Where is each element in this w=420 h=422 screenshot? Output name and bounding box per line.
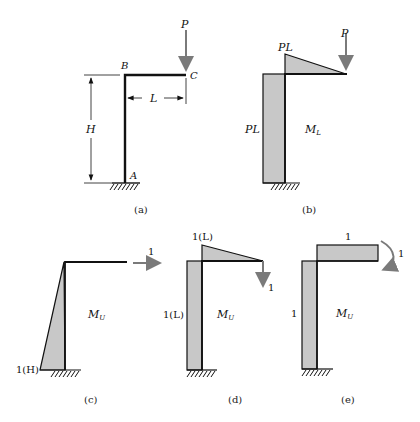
beam-moment-area bbox=[317, 245, 378, 261]
panel-caption-b: (b) bbox=[302, 204, 316, 215]
unit-load-label: 1 bbox=[268, 282, 274, 293]
diagram-name-mu: MU bbox=[216, 308, 235, 322]
diagram-name-ml: ML bbox=[304, 123, 321, 137]
fixed-support-icon bbox=[187, 370, 217, 377]
beam-moment-area bbox=[285, 54, 346, 74]
unit-moment-label: 1 bbox=[398, 248, 404, 259]
panel-caption-c: (c) bbox=[84, 394, 98, 405]
panel-b-moment-diagram bbox=[263, 33, 347, 190]
diagram-name-mu: MU bbox=[87, 308, 106, 322]
column-moment-area bbox=[302, 261, 317, 369]
column-moment-area bbox=[40, 262, 65, 370]
beam-moment-area bbox=[202, 245, 263, 261]
column-moment-area bbox=[263, 74, 285, 183]
panel-caption-a: (a) bbox=[134, 204, 148, 215]
panel-caption-d: (d) bbox=[228, 394, 242, 405]
fixed-support-icon bbox=[263, 183, 300, 190]
beam-moment-label: PL bbox=[277, 41, 293, 54]
support-label-a: A bbox=[129, 170, 137, 181]
fixed-support-icon bbox=[110, 183, 140, 190]
panel-a-frame-geometry bbox=[84, 30, 186, 190]
structural-frame-figure: P B C A H L (a) P PL PL ML (b) bbox=[0, 0, 420, 422]
fixed-support-icon bbox=[302, 369, 333, 376]
diagram-name-mu: MU bbox=[335, 307, 354, 321]
panel-caption-e: (e) bbox=[341, 394, 355, 405]
column-moment-label: PL bbox=[244, 123, 260, 136]
dimension-label-l: L bbox=[149, 92, 157, 105]
unit-moment-arrow-icon bbox=[381, 241, 394, 269]
base-moment-label: 1(H) bbox=[16, 364, 39, 375]
beam-moment-label: 1 bbox=[345, 231, 351, 242]
joint-label-b: B bbox=[120, 60, 128, 71]
column-moment-label: 1(L) bbox=[163, 309, 184, 320]
column-moment-label: 1 bbox=[291, 308, 297, 319]
beam-moment-label: 1(L) bbox=[192, 231, 213, 242]
dimension-label-h: H bbox=[85, 123, 96, 136]
column-moment-area bbox=[187, 261, 202, 370]
load-label-p: P bbox=[340, 27, 349, 40]
load-label-p: P bbox=[180, 18, 189, 31]
fixed-support-icon bbox=[40, 370, 81, 377]
unit-load-label: 1 bbox=[148, 246, 154, 257]
panel-e-moment-diagram bbox=[302, 241, 394, 376]
joint-label-c: C bbox=[190, 70, 198, 81]
